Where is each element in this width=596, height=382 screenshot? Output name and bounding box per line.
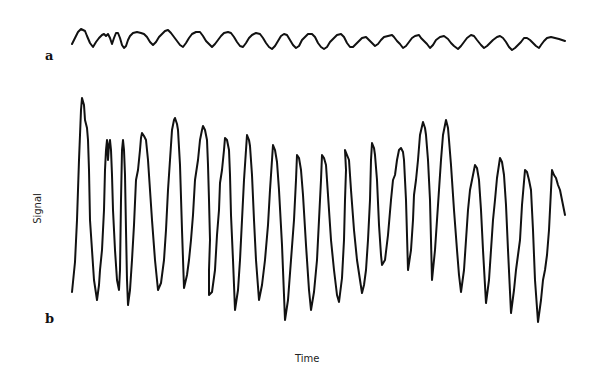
figure: a b Signal Time (0, 0, 596, 382)
panel-b-label: b (45, 311, 54, 326)
trace-a (72, 29, 565, 50)
panel-a-label: a (45, 48, 53, 63)
y-axis-label: Signal (32, 193, 43, 224)
trace-b (72, 98, 565, 322)
chart-canvas (0, 0, 596, 382)
x-axis-label: Time (295, 353, 319, 364)
